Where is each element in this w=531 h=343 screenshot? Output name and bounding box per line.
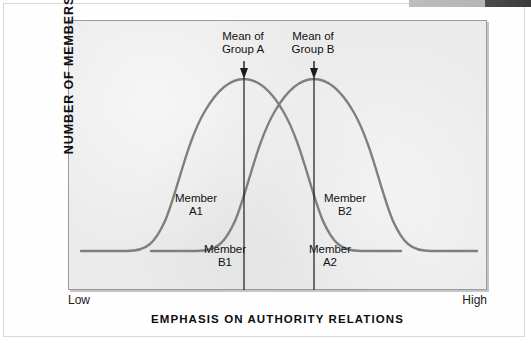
annotation-member-a2: Member A2 bbox=[309, 243, 351, 269]
annotation-member-b2: Member B2 bbox=[324, 192, 366, 218]
annotation-member-b1-line1: Member bbox=[204, 243, 246, 256]
annotation-member-a2-line2: A2 bbox=[309, 256, 351, 269]
x-axis-high-label: High bbox=[462, 293, 487, 307]
annotation-mean-group-b-line1: Mean of bbox=[292, 30, 335, 43]
annotation-mean-group-a-line2: Group A bbox=[222, 43, 264, 56]
annotation-member-a2-line1: Member bbox=[309, 243, 351, 256]
mean-arrow-head-group-a bbox=[240, 68, 248, 79]
annotation-member-a1-line1: Member bbox=[175, 192, 217, 205]
annotation-mean-group-a-line1: Mean of bbox=[222, 30, 264, 43]
annotation-mean-group-b: Mean of Group B bbox=[292, 30, 335, 56]
y-axis-label: NUMBER OF MEMBERS bbox=[62, 0, 76, 170]
chart-plot-area bbox=[68, 20, 487, 290]
annotation-mean-group-b-line2: Group B bbox=[292, 43, 335, 56]
scan-artifact bbox=[409, 0, 531, 7]
annotation-member-b2-line1: Member bbox=[324, 192, 366, 205]
annotation-member-a1-line2: A1 bbox=[175, 205, 217, 218]
x-axis-title: EMPHASIS ON AUTHORITY RELATIONS bbox=[68, 313, 487, 325]
mean-arrow-head-group-b bbox=[310, 68, 318, 79]
scanned-page: Mean of Group A Mean of Group B Member A… bbox=[0, 0, 531, 343]
curve-group-a bbox=[81, 79, 401, 251]
annotation-member-b1-line2: B1 bbox=[204, 256, 246, 269]
x-axis-low-label: Low bbox=[68, 293, 90, 307]
distribution-curves bbox=[69, 21, 488, 291]
annotation-mean-group-a: Mean of Group A bbox=[222, 30, 264, 56]
annotation-member-b2-line2: B2 bbox=[324, 205, 366, 218]
annotation-member-a1: Member A1 bbox=[175, 192, 217, 218]
annotation-member-b1: Member B1 bbox=[204, 243, 246, 269]
